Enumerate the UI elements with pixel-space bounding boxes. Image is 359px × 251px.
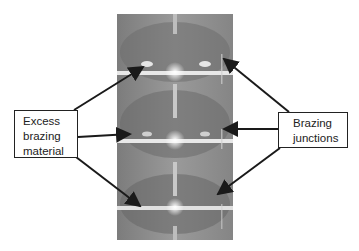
excess-brazing-material-label: Excess brazing material	[14, 110, 78, 158]
arrow-junction-top	[224, 59, 289, 112]
label-line: material	[23, 144, 77, 159]
label-line: junctions	[293, 131, 347, 146]
arrow-excess-bottom	[76, 157, 140, 206]
arrow-junction-bottom	[218, 148, 280, 194]
label-line: brazing	[23, 129, 77, 144]
label-line: Brazing	[293, 116, 347, 131]
arrow-excess-top	[74, 67, 143, 110]
arrow-excess-middle	[78, 134, 130, 137]
label-line: Excess	[23, 114, 77, 129]
brazing-junctions-label: Brazing junctions	[278, 112, 348, 148]
